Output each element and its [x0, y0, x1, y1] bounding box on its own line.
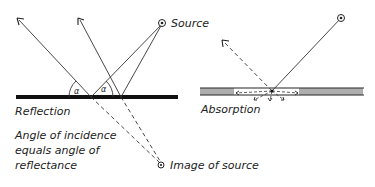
impact-point — [271, 90, 274, 93]
absorption-panel: Absorption — [200, 15, 364, 117]
absorption-reflected-ray — [224, 42, 272, 91]
angle-symbol-left: α — [74, 87, 80, 96]
absorption-source-icon — [338, 15, 345, 22]
absorption-label: Absorption — [200, 103, 261, 116]
reflected-ray-1 — [19, 20, 91, 97]
angle-arc-right — [106, 81, 113, 97]
incident-ray-2 — [121, 24, 162, 97]
image-of-source-label: Image of source — [170, 159, 259, 172]
source-icon — [159, 20, 166, 27]
virtual-ray-2 — [121, 97, 160, 161]
reflection-absorption-diagram: α α Source Image of source Reflection An… — [0, 0, 375, 187]
caption-line-1: Angle of incidence — [14, 129, 117, 142]
image-of-source-icon — [158, 162, 164, 168]
source-label: Source — [171, 17, 209, 30]
angle-symbol-right: α — [101, 85, 107, 94]
scattered-rays — [236, 91, 298, 101]
reflection-label: Reflection — [15, 105, 70, 118]
caption-line-3: reflectance — [15, 159, 77, 172]
absorption-incident-ray — [272, 18, 341, 91]
caption-line-2: equals angle of — [15, 144, 101, 157]
